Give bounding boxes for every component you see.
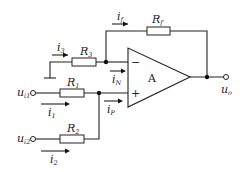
circuit-diagram: − + A Rf if R3 i3 iN iP R1 i1 R2 i2 ui1 …: [0, 0, 242, 172]
node-inverting: [104, 60, 108, 64]
label-i2: i2: [50, 153, 58, 167]
terminal-uo: [224, 75, 229, 80]
terminal-ui1: [31, 91, 36, 96]
label-rf: Rf: [151, 13, 164, 27]
label-ui2: ui2: [17, 132, 30, 146]
r1-branch: [31, 89, 129, 107]
arrow-ip-icon: [118, 99, 123, 104]
resistor-r2: [60, 135, 84, 143]
opamp-label: A: [147, 72, 157, 85]
r2-branch: [31, 93, 100, 154]
terminal-ui2: [31, 137, 36, 142]
label-ui1: ui1: [17, 86, 30, 100]
arrow-i1-icon: [65, 102, 70, 107]
label-in: iN: [112, 73, 122, 87]
label-ip: iP: [107, 103, 116, 117]
noninverting-sign: +: [131, 87, 140, 100]
label-r1: R1: [66, 76, 79, 90]
arrow-in-icon: [121, 69, 126, 74]
node-output: [205, 75, 209, 79]
label-uo: uo: [221, 83, 232, 97]
label-r2: R2: [66, 122, 79, 136]
arrow-if-icon: [123, 22, 128, 27]
opamp: [128, 48, 229, 107]
resistor-rf: [147, 27, 170, 35]
resistor-r1: [60, 89, 84, 97]
label-r3: R3: [79, 45, 92, 59]
resistor-r3: [72, 58, 96, 66]
label-i3: i3: [57, 41, 65, 55]
arrow-i2-icon: [65, 149, 70, 154]
label-i1: i1: [48, 106, 56, 120]
inverting-sign: −: [131, 56, 140, 69]
